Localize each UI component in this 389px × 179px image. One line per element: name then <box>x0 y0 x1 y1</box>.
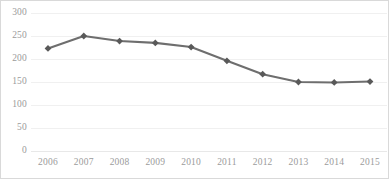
x-tick-label: 2009 <box>145 158 165 168</box>
x-tick-label: 2013 <box>289 158 309 168</box>
x-tick-label: 2012 <box>253 158 273 168</box>
x-tick-label: 2015 <box>360 158 380 168</box>
y-tick-label: 0 <box>22 146 27 156</box>
x-tick-label: 2007 <box>74 158 94 168</box>
plot-area: 050100150200250300 200620072008200920102… <box>31 13 387 151</box>
y-tick-label: 100 <box>12 100 27 110</box>
y-tick-label: 200 <box>12 54 27 64</box>
y-tick-label: 50 <box>17 123 27 133</box>
gridline-0 <box>31 151 387 152</box>
data-point-marker <box>367 78 374 85</box>
series-markers-group <box>45 33 374 86</box>
x-tick-label: 2008 <box>110 158 130 168</box>
series-line-path <box>48 36 370 82</box>
x-tick-label: 2011 <box>217 158 236 168</box>
data-point-marker <box>116 38 123 45</box>
x-tick-label: 2010 <box>181 158 201 168</box>
y-tick-label: 150 <box>12 77 27 87</box>
data-point-marker <box>223 57 230 64</box>
x-tick-label: 2006 <box>38 158 58 168</box>
chart-figure: 050100150200250300 200620072008200920102… <box>0 0 389 179</box>
data-point-marker <box>295 79 302 86</box>
data-point-marker <box>259 71 266 78</box>
data-point-marker <box>152 40 159 47</box>
data-series-line <box>31 13 387 151</box>
y-tick-label: 250 <box>12 31 27 41</box>
data-point-marker <box>188 44 195 51</box>
data-point-marker <box>45 45 52 52</box>
x-tick-label: 2014 <box>324 158 344 168</box>
y-tick-label: 300 <box>12 8 27 18</box>
data-point-marker <box>80 33 87 40</box>
data-point-marker <box>331 79 338 86</box>
